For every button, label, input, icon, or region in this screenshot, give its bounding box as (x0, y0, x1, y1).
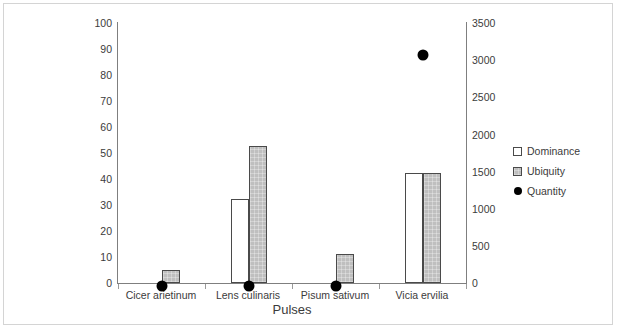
right-axis-tick-labels: 3500 3000 2500 2000 1500 1000 500 0 (472, 0, 512, 329)
left-tick-60: 60 (82, 122, 112, 132)
left-axis-tick-labels: 100 90 80 70 60 50 40 30 20 10 0 (82, 0, 112, 329)
left-tick-10: 10 (82, 252, 112, 262)
right-tick-3500: 3500 (472, 18, 512, 28)
left-tick-70: 70 (82, 96, 112, 106)
right-tick-0: 0 (472, 278, 512, 288)
legend-item-ubiquity: Ubiquity (513, 161, 609, 181)
left-tick-100: 100 (82, 18, 112, 28)
plot-area (118, 22, 466, 283)
left-tick-50: 50 (82, 148, 112, 158)
legend-label-dominance: Dominance (527, 145, 580, 157)
filled-square-icon (513, 167, 522, 176)
right-tick-1500: 1500 (472, 167, 512, 177)
category-tick-4 (466, 284, 467, 289)
legend-label-quantity: Quantity (527, 185, 566, 197)
left-tick-20: 20 (82, 226, 112, 236)
category-label-pisum-sativum: Pisum sativum (301, 289, 369, 301)
left-tick-0: 0 (82, 278, 112, 288)
left-tick-30: 30 (82, 200, 112, 210)
filled-circle-icon (514, 187, 522, 195)
right-tick-1000: 1000 (472, 204, 512, 214)
category-tick-0 (118, 284, 119, 289)
legend-label-ubiquity: Ubiquity (527, 165, 565, 177)
category-label-cicer-arietinum: Cicer arietinum (126, 289, 197, 301)
category-label-vicia-ervilia: Vicia ervilia (396, 289, 449, 301)
category-tick-2 (292, 284, 293, 289)
left-tick-80: 80 (82, 70, 112, 80)
marker-quantity-vicia-ervilia (418, 50, 429, 61)
open-square-icon (513, 147, 522, 156)
chart-legend: Dominance Ubiquity Quantity (513, 141, 609, 201)
category-label-lens-culinaris: Lens culinaris (216, 289, 280, 301)
left-tick-90: 90 (82, 44, 112, 54)
bar-dominance-lens-culinaris (231, 199, 249, 283)
right-tick-2500: 2500 (472, 92, 512, 102)
bar-ubiquity-vicia-ervilia (423, 173, 441, 283)
bar-ubiquity-lens-culinaris (249, 146, 267, 283)
bar-ubiquity-pisum-sativum (336, 254, 354, 283)
legend-item-dominance: Dominance (513, 141, 609, 161)
right-axis-line (466, 22, 467, 284)
bar-dominance-vicia-ervilia (405, 173, 423, 283)
category-tick-3 (379, 284, 380, 289)
legend-item-quantity: Quantity (513, 181, 609, 201)
x-axis-title: Pulses (118, 302, 466, 317)
right-tick-3000: 3000 (472, 55, 512, 65)
right-tick-500: 500 (472, 241, 512, 251)
category-tick-1 (205, 284, 206, 289)
right-tick-2000: 2000 (472, 130, 512, 140)
left-tick-40: 40 (82, 174, 112, 184)
chart-figure: 100 90 80 70 60 50 40 30 20 10 0 3500 30… (0, 0, 617, 329)
